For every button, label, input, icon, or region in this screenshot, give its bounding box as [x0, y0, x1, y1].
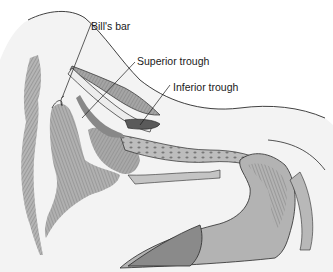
label-superior-trough: Superior trough	[137, 56, 209, 67]
illustration	[0, 0, 333, 272]
label-inferior-trough: Inferior trough	[173, 82, 238, 93]
label-bills-bar: Bill's bar	[91, 21, 130, 32]
anatomical-figure: Bill's bar Superior trough Inferior trou…	[0, 0, 333, 272]
